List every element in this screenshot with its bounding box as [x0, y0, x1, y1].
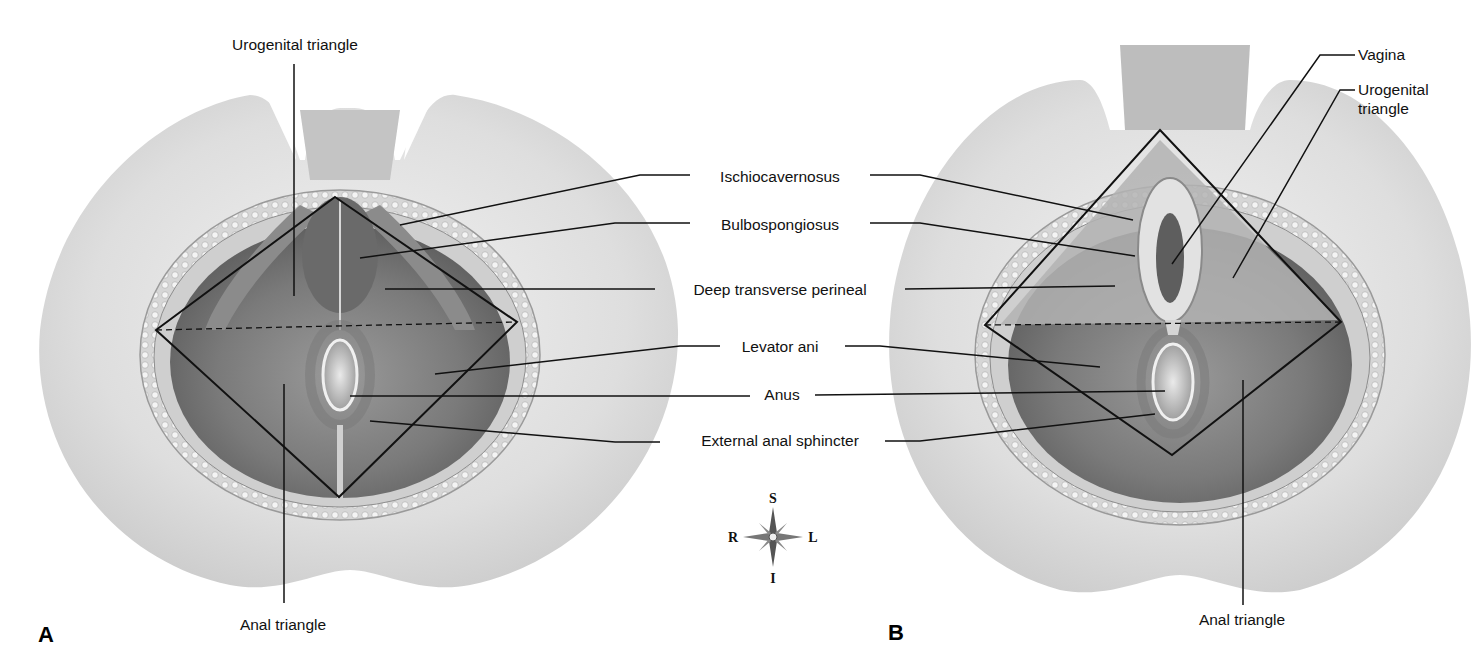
panel-a-anus [323, 340, 357, 410]
panel-b-vagina-label: Vagina [1358, 46, 1405, 63]
compass-star-icon [743, 507, 803, 567]
label-deep-transverse-perineal: Deep transverse perineal [693, 281, 866, 298]
panel-b-vagina-inner [1156, 213, 1184, 303]
compass-superior: S [769, 491, 777, 506]
panel-a-urogenital-label: Urogenital triangle [232, 36, 358, 53]
panel-a: Urogenital triangle Anal triangle A [38, 36, 750, 647]
panel-a-letter: A [38, 622, 54, 647]
label-ischiocavernosus: Ischiocavernosus [720, 168, 840, 185]
panel-b-urogenital-label-line1: Urogenital [1358, 81, 1429, 98]
compass-inferior: I [770, 571, 775, 586]
panel-b-urogenital-label-line2: triangle [1358, 100, 1409, 117]
panel-b: Vagina Urogenital triangle Anal triangle… [815, 45, 1471, 645]
panel-a-penile-region [300, 110, 400, 180]
perineum-diagram: Urogenital triangle Anal triangle A Isch… [0, 0, 1480, 670]
compass-left: L [808, 530, 817, 545]
label-external-anal-sphincter: External anal sphincter [701, 432, 859, 449]
center-labels: Ischiocavernosus Bulbospongiosus Deep tr… [693, 168, 866, 449]
panel-b-anus [1153, 344, 1193, 420]
compass-rose: S I R L [728, 491, 818, 586]
compass-right: R [728, 530, 739, 545]
panel-a-anal-label: Anal triangle [240, 616, 326, 633]
panel-b-anal-label: Anal triangle [1199, 611, 1285, 628]
panel-b-mons [1120, 45, 1250, 130]
label-anus: Anus [764, 386, 800, 403]
label-bulbospongiosus: Bulbospongiosus [721, 216, 839, 233]
label-levator-ani: Levator ani [742, 338, 819, 355]
panel-b-letter: B [888, 620, 904, 645]
